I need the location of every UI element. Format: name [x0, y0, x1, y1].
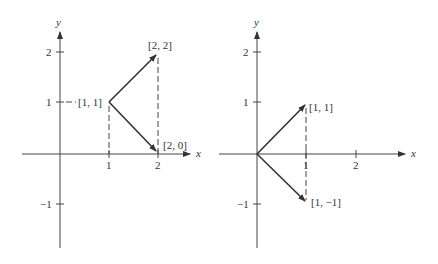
- x-tick-2: 2: [155, 159, 161, 171]
- vector-diagrams: x y 1 2 2 1 −1 [1, 1] [2, 2] [2, 0] x y …: [0, 0, 438, 264]
- vector-label-2-2: [2, 2]: [148, 39, 172, 51]
- vector-label-1-neg1: [1, −1]: [311, 196, 341, 208]
- right-panel: x y 1 2 2 1 −1 [1, 1] [1, −1]: [219, 16, 416, 248]
- x-axis-label: x: [195, 147, 201, 159]
- y-axis-label: y: [55, 16, 61, 28]
- vector-to-1-neg1: [257, 154, 305, 201]
- y-axis-label: y: [253, 16, 259, 28]
- y-tick-2: 2: [243, 46, 249, 58]
- vector-to-2-0: [109, 102, 156, 151]
- x-tick-1: 1: [106, 159, 112, 171]
- vector-label-1-1: [1, 1]: [309, 101, 333, 113]
- vector-to-2-2: [109, 55, 156, 102]
- point-label-1-1: [1, 1]: [78, 96, 102, 108]
- x-tick-2: 2: [353, 159, 359, 171]
- vector-to-1-1: [257, 105, 305, 154]
- y-tick-neg1: −1: [40, 198, 52, 210]
- y-tick-1: 1: [243, 96, 249, 108]
- y-tick-1: 1: [46, 96, 52, 108]
- vector-label-2-0: [2, 0]: [163, 139, 187, 151]
- left-panel: x y 1 2 2 1 −1 [1, 1] [2, 2] [2, 0]: [22, 16, 201, 248]
- y-tick-2: 2: [46, 46, 52, 58]
- x-axis-label: x: [410, 147, 416, 159]
- y-tick-neg1: −1: [237, 198, 249, 210]
